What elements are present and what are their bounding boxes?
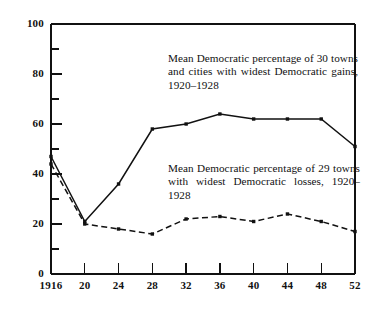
y-tick-label: 60 (8, 117, 44, 129)
data-point-marker (252, 117, 255, 120)
y-tick-label: 40 (8, 167, 44, 179)
x-tick-label: 52 (330, 279, 380, 291)
data-point-marker (218, 215, 221, 218)
y-tick-label: 80 (8, 67, 44, 79)
data-point-marker (83, 222, 86, 225)
data-point-marker (49, 155, 52, 158)
y-tick-label: 100 (8, 17, 44, 29)
chart-container: 020406080100 1916202428323640444852 Mean… (0, 0, 382, 326)
data-point-marker (353, 145, 356, 148)
data-point-marker (252, 220, 255, 223)
data-point-marker (320, 117, 323, 120)
data-point-marker (218, 112, 221, 115)
y-tick-label: 0 (8, 267, 44, 279)
annotation-gains: Mean Democratic percentage of 30 towns a… (168, 52, 358, 92)
annotation-losses: Mean Democratic percentage of 29 towns w… (168, 162, 360, 202)
data-point-marker (151, 232, 154, 235)
data-point-marker (286, 117, 289, 120)
data-point-marker (117, 227, 120, 230)
data-point-marker (184, 217, 187, 220)
y-tick-label: 20 (8, 217, 44, 229)
data-point-marker (117, 182, 120, 185)
data-point-marker (286, 212, 289, 215)
data-point-marker (49, 162, 52, 165)
data-point-marker (184, 122, 187, 125)
data-point-marker (353, 230, 356, 233)
data-point-marker (320, 220, 323, 223)
data-point-marker (151, 127, 154, 130)
